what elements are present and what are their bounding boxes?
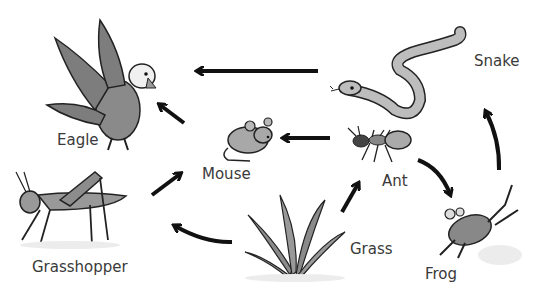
mouse-illustration: [224, 118, 272, 161]
label-grasshopper: Grasshopper: [32, 258, 128, 276]
grass-illustration: [245, 195, 345, 282]
arrow-grass-to-ant: [342, 184, 358, 212]
label-ant: Ant: [382, 172, 408, 190]
label-grass: Grass: [350, 240, 393, 258]
label-frog: Frog: [425, 265, 457, 283]
arrow-mouse-to-eagle: [160, 105, 184, 123]
arrow-frog-to-snake: [486, 112, 499, 170]
frog-illustration: [440, 185, 522, 265]
label-snake: Snake: [474, 52, 520, 70]
food-web-diagram: Eagle Snake Mouse Ant Grasshopper Grass …: [0, 0, 534, 297]
arrow-grass-to-grasshopper: [175, 226, 232, 242]
label-mouse: Mouse: [202, 165, 251, 183]
snake-illustration: [330, 32, 460, 113]
arrow-ant-to-frog: [418, 160, 450, 194]
arrow-grasshopper-to-mouse: [152, 174, 180, 195]
ant-illustration: [348, 126, 411, 162]
label-eagle: Eagle: [57, 131, 99, 149]
grasshopper-illustration: [16, 172, 126, 249]
